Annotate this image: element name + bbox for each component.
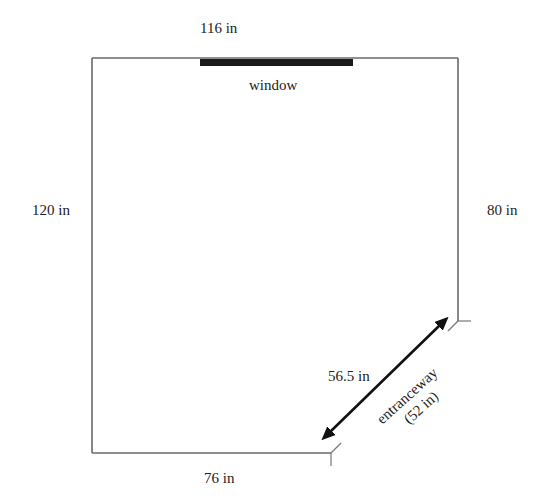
bottom-tick-diagonal (331, 443, 341, 453)
bottom-wall-label: 76 in (204, 470, 235, 486)
top-wall-label: 116 in (200, 20, 238, 36)
right-tick-diagonal (448, 321, 458, 331)
window-bar (200, 59, 353, 66)
entranceway-label-group: entranceway (52 in) (374, 364, 454, 441)
floor-plan-diagram: 116 in window 120 in 80 in 56.5 in 76 in… (0, 0, 550, 503)
diagonal-wall-label: 56.5 in (328, 368, 370, 384)
right-wall-label: 80 in (487, 202, 518, 218)
window-label: window (249, 77, 298, 93)
left-wall-label: 120 in (32, 202, 70, 218)
